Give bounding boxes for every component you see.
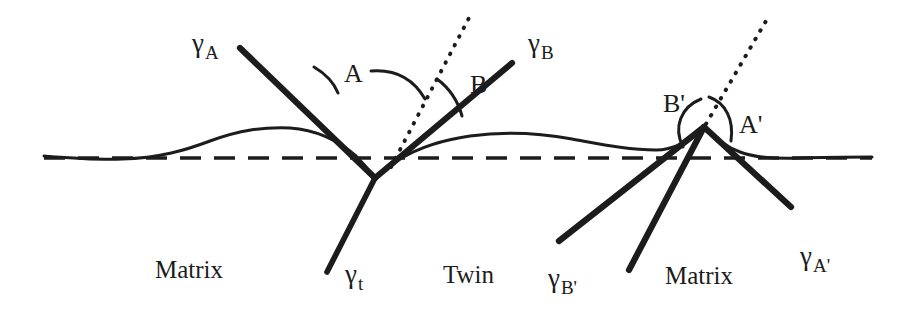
label-angle-B: B (470, 70, 487, 99)
label-gamma-A: γA (191, 28, 219, 63)
label-region-matrix-right: Matrix (665, 262, 734, 289)
label-gamma-Aprime-symbol: γ (799, 241, 812, 271)
label-gamma-Bprime-symbol: γ (547, 263, 560, 293)
twin-boundary-groove-diagram: γA γB γt γB' γA' A B B' A' Matrix Twin M… (0, 0, 914, 315)
gamma-t-line (327, 178, 375, 272)
label-gamma-B-symbol: γ (527, 28, 540, 58)
diagram-canvas: γA γB γt γB' γA' A B B' A' Matrix Twin M… (0, 0, 914, 315)
label-gamma-A-subscript: A (205, 42, 219, 63)
label-gamma-Bprime: γB' (547, 263, 577, 298)
surface-profile-left (44, 128, 375, 178)
label-gamma-t-subscript: t (358, 273, 364, 294)
angle-arc-A-inner (314, 67, 338, 93)
angle-arc-A-outer (371, 71, 425, 99)
label-gamma-B-subscript: B (541, 42, 554, 63)
label-gamma-B: γB (527, 28, 554, 63)
label-region-twin: Twin (443, 261, 495, 288)
label-gamma-Aprime-subscript: A' (813, 255, 830, 276)
label-gamma-t: γt (344, 259, 364, 294)
gamma-B-line (375, 63, 512, 178)
gamma-Aprime-line (704, 127, 791, 207)
label-gamma-t-symbol: γ (344, 259, 357, 289)
label-gamma-Aprime: γA' (799, 241, 830, 276)
normal-dotted-right (706, 21, 766, 124)
label-gamma-Bprime-subscript: B' (561, 277, 577, 298)
label-angle-Bprime: B' (663, 89, 685, 118)
label-angle-Aprime: A' (739, 110, 762, 139)
label-region-matrix-left: Matrix (155, 256, 224, 283)
label-angle-A: A (344, 59, 363, 88)
label-gamma-A-symbol: γ (191, 28, 204, 58)
